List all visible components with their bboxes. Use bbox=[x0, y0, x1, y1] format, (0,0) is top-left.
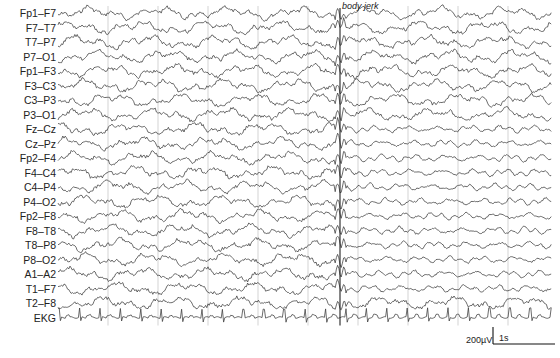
channel-trace bbox=[58, 252, 551, 268]
channel-label: T2–F8 bbox=[26, 297, 57, 309]
channel-trace bbox=[58, 93, 551, 107]
channel-trace bbox=[58, 308, 551, 323]
channel-trace bbox=[58, 34, 551, 50]
eeg-montage-chart: Fp1–F7F7–T7T7–P7P7–O1Fp1–F3F3–C3C3–P3P3–… bbox=[0, 0, 560, 358]
channel-label: T1–F7 bbox=[26, 283, 57, 295]
channel-label: P8–O2 bbox=[23, 254, 56, 266]
channel-label: F7–T7 bbox=[26, 22, 57, 34]
channel-label: C3–P3 bbox=[24, 94, 56, 106]
channel-trace bbox=[58, 223, 551, 239]
scale-bar: 200µV 1s bbox=[466, 327, 555, 345]
channel-label: F8–T8 bbox=[26, 225, 57, 237]
channel-trace bbox=[58, 237, 551, 253]
channel-traces bbox=[58, 5, 551, 322]
time-gridlines bbox=[108, 6, 508, 326]
channel-label: EKG bbox=[34, 312, 56, 324]
channel-trace bbox=[58, 265, 551, 282]
channel-trace bbox=[58, 107, 551, 122]
channel-trace bbox=[58, 78, 551, 94]
channel-label: Fp1–F7 bbox=[20, 7, 56, 19]
channel-trace bbox=[58, 179, 551, 195]
channel-trace bbox=[58, 165, 551, 179]
amplitude-scale-label: 200µV bbox=[466, 335, 492, 345]
channel-label: P4–O2 bbox=[23, 196, 56, 208]
channel-label: Fp2–F4 bbox=[20, 152, 56, 164]
channel-label: Cz–Pz bbox=[25, 138, 56, 150]
channel-trace bbox=[58, 63, 551, 79]
channel-trace bbox=[58, 279, 551, 295]
channel-trace bbox=[58, 150, 551, 165]
channel-label: Fp1–F3 bbox=[20, 65, 56, 77]
channel-label: P7–O1 bbox=[23, 51, 56, 63]
channel-label: F3–C3 bbox=[24, 80, 56, 92]
time-scale-label: 1s bbox=[499, 333, 509, 343]
channel-trace bbox=[58, 118, 551, 136]
channel-label: T8–P8 bbox=[25, 239, 56, 251]
channel-trace bbox=[58, 49, 551, 66]
channel-trace bbox=[58, 195, 551, 210]
channel-label: T7–P7 bbox=[25, 36, 56, 48]
channel-label: Fp2–F8 bbox=[20, 210, 56, 222]
channel-label: P3–O1 bbox=[23, 109, 56, 121]
channel-label: C4–P4 bbox=[24, 181, 56, 193]
channel-trace bbox=[58, 296, 551, 310]
channel-trace bbox=[58, 5, 551, 22]
channel-label: A1–A2 bbox=[24, 268, 56, 280]
event-annotation-label: body jerk bbox=[342, 1, 379, 11]
channel-trace bbox=[58, 133, 551, 151]
channel-trace bbox=[58, 208, 551, 224]
channel-trace bbox=[58, 18, 551, 35]
channel-label: Fz–Cz bbox=[26, 123, 56, 135]
channel-label: F4–C4 bbox=[24, 167, 56, 179]
channel-labels: Fp1–F7F7–T7T7–P7P7–O1Fp1–F3F3–C3C3–P3P3–… bbox=[20, 7, 56, 324]
